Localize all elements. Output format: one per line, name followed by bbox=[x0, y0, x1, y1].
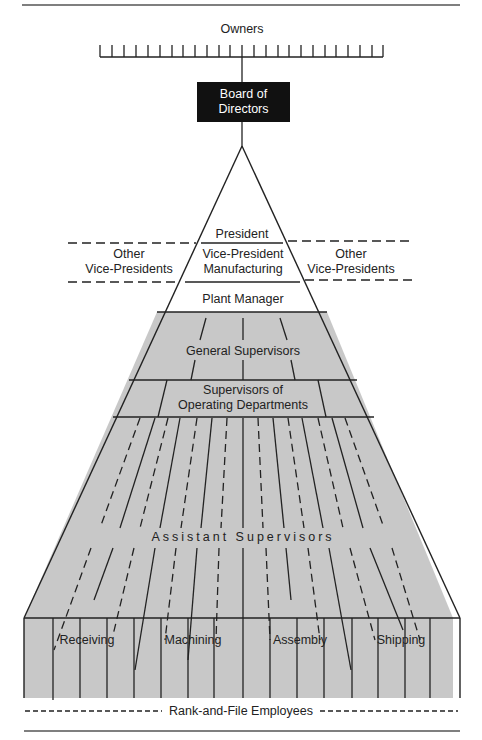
plant-manager-label: Plant Manager bbox=[182, 292, 304, 307]
sup-line1: Supervisors of bbox=[160, 383, 326, 398]
sup-line2: Operating Departments bbox=[160, 398, 326, 413]
vp-line2: Manufacturing bbox=[182, 262, 304, 277]
other-vps-right: Other Vice-Presidents bbox=[290, 247, 412, 277]
other-vps-left-line1: Other bbox=[68, 247, 190, 262]
board-of-directors: Board of Directors bbox=[197, 87, 290, 117]
dept-shipping: Shipping bbox=[366, 633, 436, 648]
rank-and-file-label: Rank-and-File Employees bbox=[162, 704, 320, 719]
other-vps-left: Other Vice-Presidents bbox=[68, 247, 190, 277]
supervisors-operating-label: Supervisors of Operating Departments bbox=[160, 383, 326, 413]
board-line1: Board of bbox=[197, 87, 290, 102]
general-supervisors-label: General Supervisors bbox=[170, 344, 316, 359]
other-vps-right-line2: Vice-Presidents bbox=[290, 262, 412, 277]
owners-comb bbox=[100, 45, 383, 82]
other-vps-right-line1: Other bbox=[290, 247, 412, 262]
dept-assembly: Assembly bbox=[265, 633, 335, 648]
board-line2: Directors bbox=[197, 102, 290, 117]
vp-manufacturing-label: Vice-President Manufacturing bbox=[182, 247, 304, 277]
dept-receiving: Receiving bbox=[52, 633, 122, 648]
assistant-supervisors-label: Assistant Supervisors bbox=[120, 530, 366, 545]
president-label: President bbox=[192, 227, 292, 242]
other-vps-left-line2: Vice-Presidents bbox=[68, 262, 190, 277]
vp-line1: Vice-President bbox=[182, 247, 304, 262]
dept-machining: Machining bbox=[158, 633, 228, 648]
owners-label: Owners bbox=[0, 22, 482, 37]
